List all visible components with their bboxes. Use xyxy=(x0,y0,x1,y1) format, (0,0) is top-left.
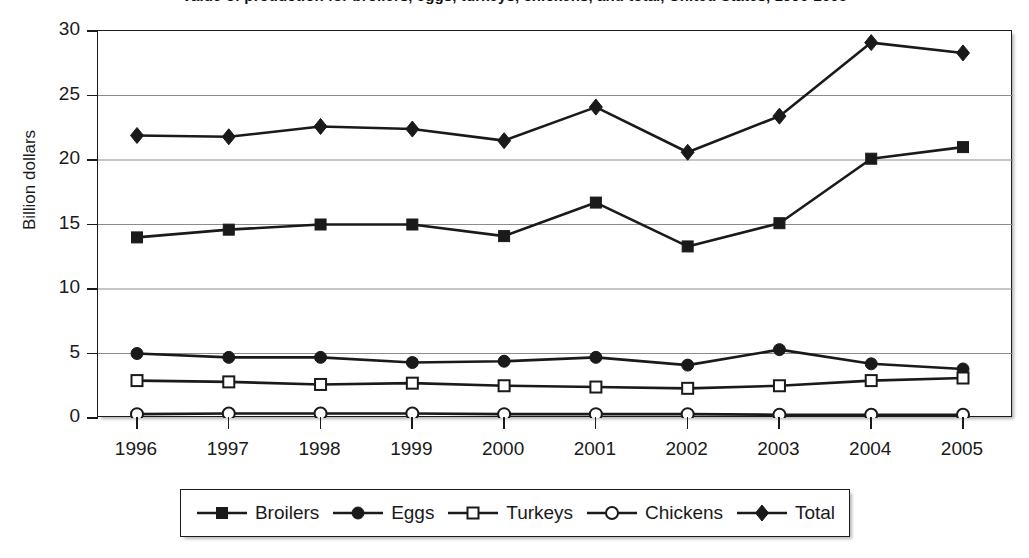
datapoint-turkeys-1998-glyph xyxy=(315,379,326,390)
legend-item-turkeys[interactable]: Turkeys xyxy=(446,502,573,524)
x-tick-label-2003: 2003 xyxy=(733,438,823,460)
datapoint-broilers-2003 xyxy=(774,218,785,229)
chart-title: Value of production for broilers, eggs, … xyxy=(0,0,1029,5)
x-tick-mark-2002 xyxy=(687,417,689,429)
y-tick-label-20: 20 xyxy=(38,147,80,169)
legend-marker-turkeys-glyph xyxy=(468,508,479,519)
x-tick-mark-2000 xyxy=(503,417,505,429)
datapoint-eggs-2004-glyph xyxy=(865,358,877,370)
datapoint-broilers-1997 xyxy=(223,224,234,235)
chart-legend: BroilersEggsTurkeysChickensTotal xyxy=(180,489,850,537)
legend-item-broilers[interactable]: Broilers xyxy=(195,502,319,524)
legend-label-total: Total xyxy=(795,502,835,524)
datapoint-broilers-2005 xyxy=(958,142,969,153)
datapoint-total-2000-glyph xyxy=(498,133,511,149)
series-eggs xyxy=(137,350,963,369)
chart-canvas xyxy=(98,31,1013,418)
y-tick-label-15: 15 xyxy=(38,212,80,234)
legend-label-chickens: Chickens xyxy=(645,502,723,524)
datapoint-total-1997-glyph xyxy=(222,129,235,145)
datapoint-total-2005 xyxy=(957,45,970,61)
datapoint-eggs-2003 xyxy=(773,344,785,356)
datapoint-turkeys-2000 xyxy=(499,380,510,391)
legend-marker-total-glyph xyxy=(755,505,768,521)
filled-circle-marker-icon xyxy=(331,503,385,523)
y-tick-label-30: 30 xyxy=(38,18,80,40)
datapoint-eggs-1998-glyph xyxy=(315,351,327,363)
x-tick-label-2002: 2002 xyxy=(642,438,732,460)
x-tick-mark-2004 xyxy=(870,417,872,429)
datapoint-broilers-2004 xyxy=(866,153,877,164)
datapoint-eggs-1996 xyxy=(131,348,143,360)
y-tick-label-10: 10 xyxy=(38,276,80,298)
datapoint-eggs-1997-glyph xyxy=(223,351,235,363)
x-tick-mark-1999 xyxy=(411,417,413,429)
y-tick-mark-0 xyxy=(87,417,98,419)
datapoint-broilers-2002 xyxy=(682,241,693,252)
x-tick-label-2000: 2000 xyxy=(458,438,548,460)
chart-page: Value of production for broilers, eggs, … xyxy=(0,0,1029,558)
legend-marker-total xyxy=(755,505,768,521)
datapoint-eggs-2000 xyxy=(498,355,510,367)
datapoint-broilers-2005-glyph xyxy=(958,142,969,153)
legend-marker-broilers xyxy=(216,508,227,519)
datapoint-total-2001 xyxy=(589,99,602,115)
x-tick-label-1996: 1996 xyxy=(91,438,181,460)
x-tick-mark-1998 xyxy=(320,417,322,429)
series-line-broilers xyxy=(137,147,963,246)
series-chickens xyxy=(137,413,963,414)
series-line-turkeys xyxy=(137,378,963,388)
x-tick-label-1997: 1997 xyxy=(183,438,273,460)
datapoint-eggs-2001 xyxy=(590,351,602,363)
datapoint-broilers-1999-glyph xyxy=(407,219,418,230)
datapoint-turkeys-2004-glyph xyxy=(866,375,877,386)
y-tick-label-25: 25 xyxy=(38,83,80,105)
datapoint-total-2003-glyph xyxy=(773,108,786,124)
legend-item-total[interactable]: Total xyxy=(735,502,835,524)
plot-area xyxy=(97,30,1012,417)
datapoint-eggs-1999 xyxy=(406,357,418,369)
datapoint-broilers-1997-glyph xyxy=(223,224,234,235)
datapoint-total-2005-glyph xyxy=(957,45,970,61)
datapoint-turkeys-2000-glyph xyxy=(499,380,510,391)
y-tick-label-0: 0 xyxy=(38,405,80,427)
filled-square-marker-icon xyxy=(195,503,249,523)
datapoint-total-1998 xyxy=(314,118,327,134)
datapoint-total-2004 xyxy=(865,35,878,51)
datapoint-turkeys-2002 xyxy=(682,383,693,394)
legend-label-broilers: Broilers xyxy=(255,502,319,524)
y-tick-label-5: 5 xyxy=(38,341,80,363)
datapoint-turkeys-1999 xyxy=(407,378,418,389)
datapoint-turkeys-1997 xyxy=(223,376,234,387)
datapoint-broilers-2001-glyph xyxy=(590,197,601,208)
series-turkeys xyxy=(137,378,963,388)
datapoint-turkeys-2001-glyph xyxy=(590,382,601,393)
x-tick-label-1998: 1998 xyxy=(275,438,365,460)
x-tick-mark-1996 xyxy=(136,417,138,429)
series-markers-broilers xyxy=(132,142,969,252)
datapoint-eggs-2001-glyph xyxy=(590,351,602,363)
datapoint-turkeys-1997-glyph xyxy=(223,376,234,387)
datapoint-eggs-1999-glyph xyxy=(406,357,418,369)
series-line-total xyxy=(137,43,963,153)
legend-item-chickens[interactable]: Chickens xyxy=(585,502,723,524)
x-tick-mark-2003 xyxy=(778,417,780,429)
x-tick-label-1999: 1999 xyxy=(366,438,456,460)
datapoint-eggs-1998 xyxy=(315,351,327,363)
datapoint-broilers-2002-glyph xyxy=(682,241,693,252)
legend-marker-chickens xyxy=(606,507,618,519)
datapoint-broilers-1996-glyph xyxy=(132,232,143,243)
series-broilers xyxy=(137,147,963,246)
datapoint-turkeys-1998 xyxy=(315,379,326,390)
datapoint-total-1997 xyxy=(222,129,235,145)
datapoint-total-2002 xyxy=(681,144,694,160)
datapoint-total-2001-glyph xyxy=(589,99,602,115)
datapoint-broilers-1999 xyxy=(407,219,418,230)
datapoint-total-2002-glyph xyxy=(681,144,694,160)
legend-item-eggs[interactable]: Eggs xyxy=(331,502,434,524)
series-markers-total xyxy=(131,35,970,161)
series-line-eggs xyxy=(137,350,963,369)
series-line-chickens xyxy=(137,413,963,414)
datapoint-eggs-2002 xyxy=(682,359,694,371)
datapoint-turkeys-1996-glyph xyxy=(132,375,143,386)
